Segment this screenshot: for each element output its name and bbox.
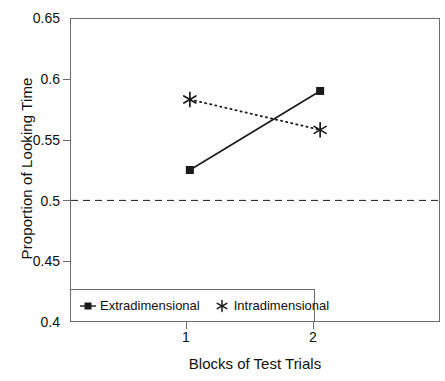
chart-legend: Extradimensional Intradimensional — [70, 289, 315, 322]
asterisk-marker-icon — [214, 299, 230, 313]
extradimensional-line — [190, 91, 320, 170]
data-point-extradimensional-block-1 — [186, 166, 194, 174]
legend-entry-extradimensional: Extradimensional — [80, 299, 200, 313]
data-layer — [0, 0, 445, 381]
x-axis-title: Blocks of Test Trials — [70, 355, 440, 372]
data-point-intradimensional-block-2 — [314, 123, 326, 137]
data-point-extradimensional-block-2 — [316, 87, 324, 95]
line-chart-figure: Proportion of Looking Time 0.65 0.6 0.55… — [0, 0, 445, 381]
filled-square-marker-icon — [80, 299, 96, 313]
legend-label-intradimensional: Intradimensional — [234, 299, 329, 313]
legend-entry-intradimensional: Intradimensional — [214, 299, 329, 313]
legend-label-extradimensional: Extradimensional — [100, 299, 200, 313]
intradimensional-line — [190, 99, 320, 129]
data-point-intradimensional-block-1 — [184, 92, 196, 106]
